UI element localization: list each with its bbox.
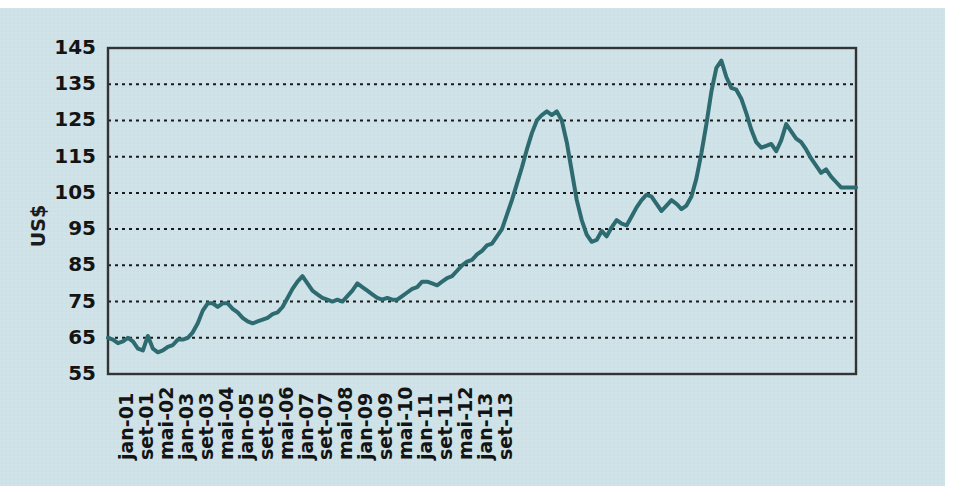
line-chart-plot: [0, 0, 964, 493]
series-line-us-dollar: [108, 61, 856, 353]
gridlines-group: [108, 84, 856, 338]
plot-frame-border: [108, 48, 856, 374]
chart-page: US$ 1451351251151059585756555 jan-01set-…: [0, 0, 964, 493]
